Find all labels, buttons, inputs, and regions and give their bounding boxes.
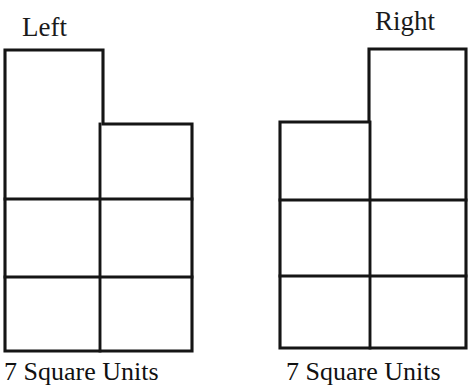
right-figure-label: Right (375, 8, 435, 35)
right-figure-caption: 7 Square Units (286, 359, 441, 385)
diagram-canvas: Left 7 Square Units Right 7 Square Units (0, 0, 474, 389)
right-figure-shape (0, 0, 474, 389)
right-figure-outline (280, 49, 466, 348)
